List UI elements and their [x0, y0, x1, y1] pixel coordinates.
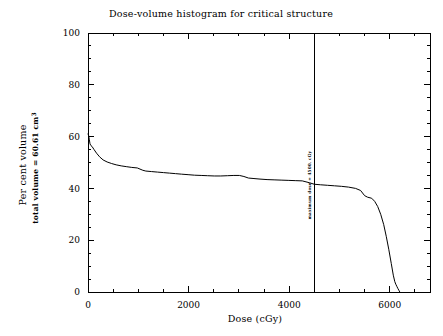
x-axis-label: Dose (cGy)	[228, 313, 283, 324]
x-tick-label: 6000	[378, 300, 401, 310]
y-tick-labels: 020406080100	[63, 28, 80, 297]
x-axis-label-group: Dose (cGy)	[228, 313, 283, 324]
chart-figure: Dose-volume histogram for critical struc…	[0, 0, 443, 336]
y-axis-label-secondary: total volume = 60.61 cm3	[30, 112, 41, 224]
y-tick-label: 80	[69, 80, 81, 90]
dvh-curve	[88, 134, 400, 292]
x-tick-label: 4000	[278, 300, 301, 310]
y-tick-label: 40	[69, 184, 81, 194]
y-tick-label: 0	[74, 287, 80, 297]
y-axis-label-group: Per cent volume total volume = 60.61 cm3	[17, 112, 40, 224]
chart-title: Dose-volume histogram for critical struc…	[109, 8, 333, 19]
x-tick-labels: 0200040006000	[85, 300, 401, 310]
y-tick-label: 60	[69, 132, 81, 142]
dose-volume-histogram-plot: Dose-volume histogram for critical struc…	[0, 0, 443, 336]
y-axis-label-primary: Per cent volume	[17, 124, 28, 205]
chart-title-group: Dose-volume histogram for critical struc…	[109, 8, 333, 19]
y-tick-label: 100	[63, 28, 80, 38]
y-tick-label: 20	[69, 235, 81, 245]
x-tick-label: 2000	[177, 300, 200, 310]
max-dose-annotation-label: maximum dose = 4500. cGy	[307, 151, 312, 220]
axis-ticks	[88, 33, 430, 292]
plot-axes	[88, 33, 430, 292]
annotation-layer: maximum dose = 4500. cGy	[307, 33, 314, 292]
x-tick-label: 0	[85, 300, 91, 310]
data-series-layer	[88, 134, 400, 292]
